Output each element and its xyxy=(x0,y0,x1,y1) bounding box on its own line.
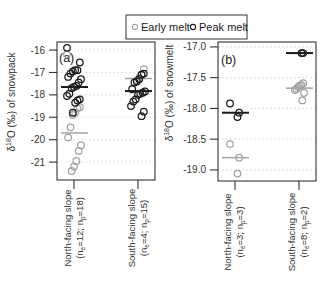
legend-peak-label: Peak melt xyxy=(199,21,248,33)
figure: Early melt Peak melt δ18O (‰) of snowpac… xyxy=(0,0,326,281)
panel-a-category-south-label: South-facing slope xyxy=(126,189,137,268)
early-melt-data-point xyxy=(227,141,234,148)
ylabel-text: O (‰) of snowpack xyxy=(6,52,17,139)
y-tick-label: -18 xyxy=(31,89,46,100)
peak-melt-data-point xyxy=(77,59,84,66)
panel-b-tag: (b) xyxy=(221,53,236,67)
legend-early-label: Early melt xyxy=(141,21,190,33)
y-tick-label: -21 xyxy=(31,157,46,168)
panel-b-category-north-counts: (ne=3; np=3) xyxy=(234,206,247,257)
ylabel-superscript: 18 xyxy=(5,138,12,146)
y-tick-label: -17.0 xyxy=(183,41,206,52)
y-tick-label: -17 xyxy=(31,67,46,78)
y-tick-label: -17.5 xyxy=(183,72,206,83)
early-melt-data-point xyxy=(234,170,241,177)
y-tick-label: -16 xyxy=(31,45,46,56)
early-melt-data-point xyxy=(299,97,306,104)
panel-b-plot-area: -17.0-17.5-18.0-18.5-19.0 xyxy=(183,41,316,190)
early-melt-data-point xyxy=(301,90,308,97)
panel-a-category-north-label: North-facing slope xyxy=(62,189,73,266)
panel-b-category-south-label: South-facing slope xyxy=(286,193,297,272)
panel-a-category-north-counts: (ne=12; np=18) xyxy=(74,197,87,259)
y-tick-label: -19 xyxy=(31,112,46,123)
peak-melt-data-point xyxy=(227,100,234,107)
y-tick-label: -18.5 xyxy=(183,134,206,145)
panel-a-y-axis-title: δ18O (‰) of snowpack xyxy=(5,52,17,152)
panel-a-category-south-counts: (ne=4; np=15) xyxy=(138,200,151,256)
panel-a-plot-area: -16-17-18-19-20-21 xyxy=(31,42,155,189)
ylabel-superscript: 18 xyxy=(163,128,170,136)
y-tick-label: -20 xyxy=(31,134,46,145)
panel-b-category-south-counts: (ne=8; np=2) xyxy=(298,206,311,257)
y-tick-label: -19.0 xyxy=(183,164,206,175)
panel-b-category-north-label: North-facing slope xyxy=(222,193,233,270)
early-melt-data-point xyxy=(65,134,72,141)
legend: Early melt Peak melt xyxy=(126,15,248,39)
y-tick-label: -18.0 xyxy=(183,103,206,114)
early-melt-data-point xyxy=(75,148,82,155)
early-melt-data-point xyxy=(67,124,74,131)
ylabel-text: O (‰) of snowmelt xyxy=(164,44,175,128)
panel-b-y-axis-title: δ18O (‰) of snowmelt xyxy=(163,44,175,141)
peak-melt-data-point xyxy=(234,114,241,121)
